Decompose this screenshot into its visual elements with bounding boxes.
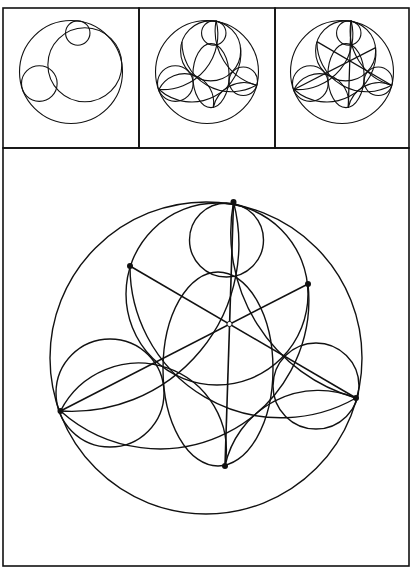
construction-arc [159,74,214,108]
diameter-line [225,202,234,466]
outer-circle [291,21,394,124]
top-circle [190,203,264,277]
right-circle [273,343,359,429]
center-point [227,321,232,326]
construction-arc [61,363,227,466]
upper-circle [316,21,376,81]
upper-circle [126,203,308,385]
point-top [231,199,237,205]
construction-arc [294,74,349,108]
upper-circle [181,21,241,81]
panel-step-1 [3,8,139,148]
panel-frames [3,8,409,566]
top-circle [337,21,361,45]
point-bottom [222,463,228,469]
point-right [353,395,359,401]
top-circle [66,21,90,45]
left-circle [22,66,58,102]
point-upper-left [127,263,133,269]
panel-step-3 [275,8,409,148]
geometric-construction-figure [0,0,412,570]
point-left [58,408,64,414]
top-circle [202,21,226,45]
panel-step-2 [139,8,275,148]
outer-circle [156,21,259,124]
large-inner-circle [48,28,122,102]
construction-arc [231,202,356,398]
thumbnail-step-3 [291,21,394,124]
outer-circle [50,202,362,514]
point-upper-right [305,281,311,287]
thumbnail-step-1 [20,21,123,124]
thumbnail-step-2 [156,21,259,124]
outer-circle [20,21,123,124]
final-construction [50,199,362,514]
